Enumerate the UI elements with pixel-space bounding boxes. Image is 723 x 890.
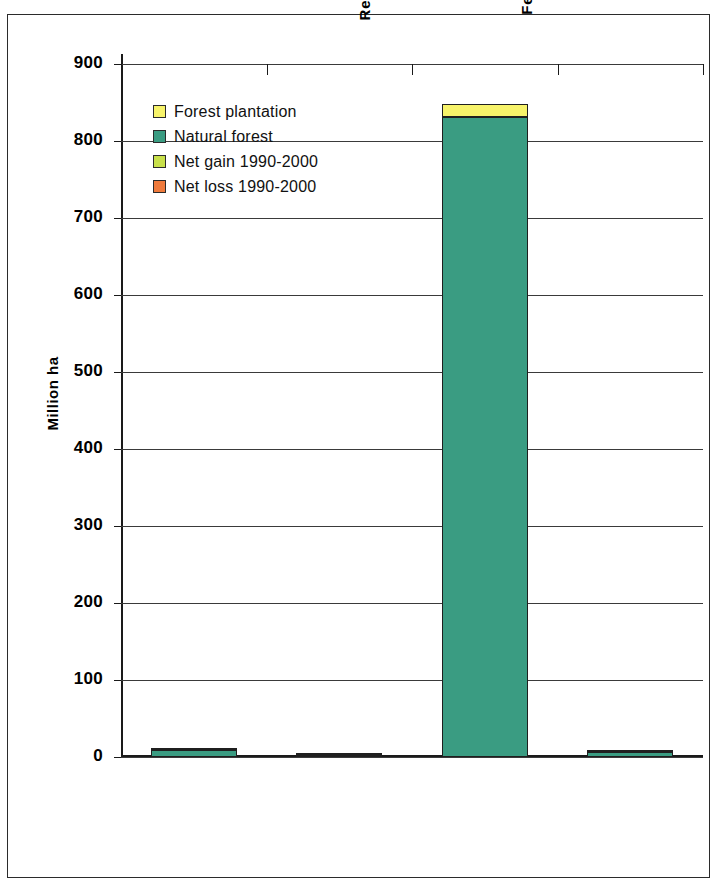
bar-segment-natural-forest[interactable]: [442, 117, 528, 757]
gridline-700: [121, 218, 703, 219]
y-tick-label-200: 200: [43, 592, 103, 612]
legend-label: Natural forest: [174, 128, 273, 146]
x-tick: [121, 64, 122, 75]
gridline-400: [121, 449, 703, 450]
legend-label: Net gain 1990-2000: [174, 153, 318, 171]
legend-item[interactable]: Forest plantation: [153, 101, 318, 122]
bar-stack[interactable]: [442, 104, 528, 757]
x-tick-label-republic-of-moldova: Republic of Moldova: [357, 0, 389, 80]
chart-figure: Million ha 0100200300400500600700800900 …: [0, 0, 723, 890]
y-tick-label-300: 300: [43, 515, 103, 535]
legend-item[interactable]: Net gain 1990-2000: [153, 151, 318, 172]
bar-segment-natural-forest[interactable]: [296, 755, 382, 757]
x-tick-label-ukraine: Ukraine: [639, 0, 655, 80]
x-tick-label-russian-federation: Russian Federation: [503, 0, 535, 80]
bar-segment-natural-forest[interactable]: [151, 750, 237, 757]
legend-swatch-icon: [153, 155, 166, 168]
gridline-300: [121, 526, 703, 527]
y-tick-label-900: 900: [43, 53, 103, 73]
y-axis-line: [121, 54, 123, 757]
legend-swatch-icon: [153, 130, 166, 143]
y-tick-900: [114, 64, 121, 65]
x-tick: [558, 64, 559, 75]
y-tick-label-100: 100: [43, 669, 103, 689]
y-tick-label-500: 500: [43, 361, 103, 381]
y-tick-label-800: 800: [43, 130, 103, 150]
y-tick-600: [114, 295, 121, 296]
x-tick: [703, 64, 704, 75]
chart-legend: Forest plantationNatural forestNet gain …: [153, 101, 318, 197]
y-tick-label-0: 0: [43, 746, 103, 766]
legend-item[interactable]: Net loss 1990-2000: [153, 176, 318, 197]
y-tick-100: [114, 680, 121, 681]
y-tick-label-700: 700: [43, 207, 103, 227]
x-tick-label-belarus: Belarus: [203, 0, 219, 80]
y-tick-200: [114, 603, 121, 604]
bar-segment-forest-plantation[interactable]: [442, 104, 528, 117]
y-tick-400: [114, 449, 121, 450]
y-tick-800: [114, 141, 121, 142]
legend-swatch-icon: [153, 180, 166, 193]
bar-stack[interactable]: [151, 748, 237, 757]
bar-stack[interactable]: [587, 750, 673, 757]
y-tick-500: [114, 372, 121, 373]
legend-swatch-icon: [153, 105, 166, 118]
gridline-600: [121, 295, 703, 296]
legend-item[interactable]: Natural forest: [153, 126, 318, 147]
y-tick-700: [114, 218, 121, 219]
gridline-500: [121, 372, 703, 373]
bar-stack[interactable]: [296, 753, 382, 757]
x-tick: [412, 64, 413, 75]
legend-label: Net loss 1990-2000: [174, 178, 316, 196]
bar-segment-natural-forest[interactable]: [587, 752, 673, 757]
gridline-100: [121, 680, 703, 681]
figure-frame: Million ha 0100200300400500600700800900 …: [7, 14, 710, 878]
y-tick-label-400: 400: [43, 438, 103, 458]
x-tick: [267, 64, 268, 75]
legend-label: Forest plantation: [174, 103, 297, 121]
y-tick-300: [114, 526, 121, 527]
gridline-200: [121, 603, 703, 604]
y-tick-label-600: 600: [43, 284, 103, 304]
y-tick-0: [114, 757, 121, 758]
